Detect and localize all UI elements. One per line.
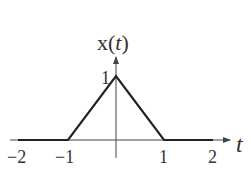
signal-plot: x(t) 1 −2 −1 1 2 t [0,0,251,178]
x-axis-label: t [236,131,244,157]
x-tick-neg2: −2 [7,147,26,167]
x-tick-2: 2 [208,147,217,167]
y-tick-1: 1 [101,68,110,88]
x-tick-neg1: −1 [55,147,74,167]
plot-title: x(t) [97,30,129,55]
x-tick-1: 1 [159,147,168,167]
